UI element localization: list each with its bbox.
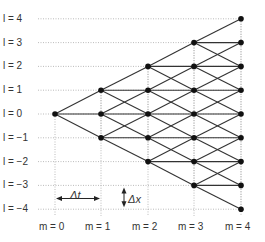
node	[98, 111, 104, 117]
row-label: l = 3	[3, 37, 22, 48]
dx-label: Δx	[128, 193, 141, 205]
node	[145, 87, 151, 93]
node	[238, 64, 244, 70]
edge	[148, 162, 194, 186]
col-label: m = 0	[39, 221, 64, 232]
edge	[194, 185, 241, 209]
node	[191, 87, 197, 93]
row-label: l = −1	[3, 132, 28, 143]
node	[98, 87, 104, 93]
edge	[101, 66, 148, 90]
row-label: l = −2	[3, 156, 28, 167]
node	[52, 111, 58, 117]
node	[238, 16, 244, 22]
node	[238, 111, 244, 117]
node	[191, 135, 197, 141]
node	[191, 64, 197, 70]
node	[145, 111, 151, 117]
col-label: m = 4	[225, 221, 250, 232]
node	[145, 159, 151, 165]
row-label: l = 0	[3, 108, 22, 119]
node	[191, 40, 197, 46]
node	[238, 135, 244, 141]
node	[191, 159, 197, 165]
node	[238, 87, 244, 93]
lattice-svg	[0, 0, 265, 242]
node	[191, 111, 197, 117]
row-label: l = 4	[3, 13, 22, 24]
row-label: l = −3	[3, 179, 28, 190]
node	[98, 135, 104, 141]
node	[238, 159, 244, 165]
row-label: l = −4	[3, 203, 28, 214]
col-label: m = 1	[85, 221, 110, 232]
edge	[148, 43, 194, 67]
node	[145, 64, 151, 70]
node	[238, 206, 244, 212]
row-label: l = 2	[3, 60, 22, 71]
col-label: m = 2	[132, 221, 157, 232]
node	[191, 183, 197, 189]
node	[238, 40, 244, 46]
edge	[194, 19, 241, 43]
lattice-diagram: l = 4l = 3l = 2l = 1l = 0l = −1l = −2l =…	[0, 0, 265, 242]
edge	[101, 138, 148, 162]
row-label: l = 1	[3, 84, 22, 95]
node	[145, 135, 151, 141]
dt-label: Δt	[70, 189, 80, 201]
edge	[55, 114, 101, 138]
node	[238, 183, 244, 189]
col-label: m = 3	[178, 221, 203, 232]
edge	[55, 90, 101, 114]
